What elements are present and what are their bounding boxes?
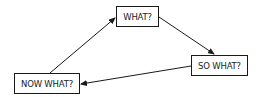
node-now-what: NOW WHAT? [14, 73, 80, 94]
node-now-what-label: NOW WHAT? [21, 79, 73, 89]
node-so-what-label: SO WHAT? [198, 61, 241, 71]
arrow-now-what-to-what [50, 18, 115, 73]
node-what-label: WHAT? [123, 12, 152, 22]
node-what: WHAT? [116, 6, 159, 27]
arrow-what-to-so-what [159, 17, 214, 54]
reflection-cycle-diagram: WHAT? SO WHAT? NOW WHAT? [0, 0, 261, 97]
node-so-what: SO WHAT? [191, 55, 248, 76]
arrow-so-what-to-now-what [81, 66, 191, 84]
